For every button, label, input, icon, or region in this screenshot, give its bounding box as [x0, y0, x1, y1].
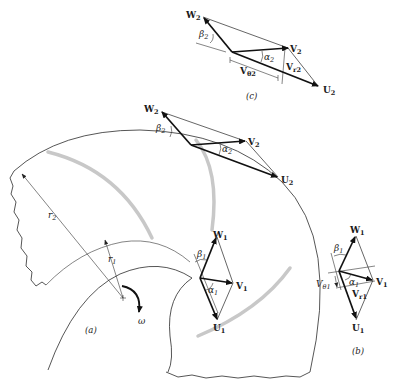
panel-c-V-vector: [232, 48, 288, 52]
impeller-velocity-diagram: r2 r1 ω (a) W2 V2 U2 α2 β2 W1 V1 U1: [0, 0, 397, 386]
panel-c-beta-arc: [210, 34, 213, 43]
outlet-alpha-label: α2: [222, 144, 232, 156]
panel-b-W-V-connector: [356, 236, 373, 280]
inlet-velocity-triangle: W1 V1 U1 β1 α1: [194, 230, 248, 335]
broken-edge-left: [10, 171, 46, 286]
panel-b-W-label: W1: [349, 225, 365, 237]
inlet-V-label: V1: [235, 281, 248, 293]
outlet-velocity-triangle: W2 V2 U2 α2 β2: [143, 104, 293, 187]
panel-b-U-label: U1: [352, 323, 364, 335]
radius-r2-line: [22, 174, 123, 298]
r2-label: r2: [48, 210, 56, 222]
outlet-beta-label: β2: [155, 123, 165, 135]
outlet-beta-arc: [170, 126, 172, 137]
blade-3: [198, 268, 290, 336]
inlet-V-U-connector: [217, 283, 233, 320]
panel-c-outlet-detail: W2 V2 U2 β2 α2 Vθ2 Vr2 (c): [185, 10, 335, 101]
panel-b-V-label: V1: [375, 277, 388, 289]
panel-c-alpha-arc: [261, 51, 263, 62]
outer-rim-arc: [14, 130, 320, 372]
inner-hub-arc: [48, 266, 192, 372]
panel-c-U-label: U2: [323, 85, 335, 97]
panel-c-Vr-line: [282, 48, 285, 84]
panel-b-alpha-label: α1: [349, 277, 359, 289]
panel-c-tangent-line: [196, 43, 226, 52]
outlet-W-label: W2: [143, 104, 159, 116]
inlet-alpha-label: α1: [208, 285, 218, 297]
panel-b-Vtheta-label: Vθ1: [316, 279, 331, 291]
inner-arc-segment: [46, 241, 190, 285]
panel-c-Vr-label: Vr2: [285, 62, 301, 74]
panel-c-beta-label: β2: [198, 29, 208, 41]
panel-c-Vtheta-label: Vθ2: [239, 66, 256, 78]
radius-r1-line: [105, 240, 123, 298]
cropped-caption-strip: [0, 378, 397, 384]
outlet-alpha-arc: [219, 143, 221, 155]
rotation-arrow-icon: [122, 286, 139, 312]
panel-c-W-label: W2: [185, 10, 201, 22]
panel-b-Vr-label: Vr1: [351, 289, 367, 301]
outlet-V-label: V2: [247, 137, 260, 149]
center-mark: [120, 295, 126, 301]
panel-a-caption: (a): [85, 325, 97, 335]
panel-b-beta-label: β1: [333, 243, 343, 255]
panel-b-caption: (b): [352, 346, 364, 356]
impeller-sector: r2 r1 ω (a): [10, 130, 320, 378]
panel-c-V-label: V2: [289, 44, 302, 56]
blade-2: [196, 140, 214, 230]
outlet-U-label: U2: [281, 175, 293, 187]
panel-c-alpha-label: α2: [264, 52, 274, 64]
omega-label: ω: [138, 316, 146, 326]
panel-b-Vtheta-arrow: [335, 276, 337, 287]
panel-b-inlet-detail: W1 V1 U1 β1 α1 Vθ1 Vr1 (b): [316, 225, 388, 356]
r1-label: r1: [108, 254, 116, 266]
panel-b-V-vector: [339, 271, 372, 280]
diagram-canvas: r2 r1 ω (a) W2 V2 U2 α2 β2 W1 V1 U1: [0, 0, 397, 386]
panel-c-caption: (c): [246, 91, 257, 101]
inlet-W-V-connector: [217, 237, 233, 283]
